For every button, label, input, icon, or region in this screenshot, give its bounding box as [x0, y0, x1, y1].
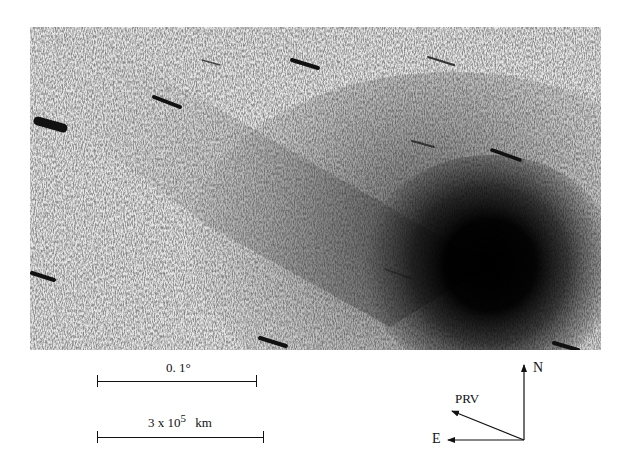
distance-scale-label: 3 x 105 km: [148, 415, 212, 431]
distance-scale-unit: km: [195, 415, 212, 430]
comet-image: [30, 27, 601, 350]
north-label: N: [533, 360, 543, 376]
angular-scale-line: [97, 381, 257, 382]
distance-scale-base: 3 x 10: [148, 415, 181, 430]
distance-scale-left-tick: [97, 431, 98, 443]
angular-scale-left-tick: [97, 375, 98, 387]
prv-label: PRV: [455, 391, 479, 407]
east-label: E: [432, 431, 441, 447]
orientation-compass: N E PRV: [430, 355, 560, 455]
angular-scale-right-tick: [256, 375, 257, 387]
distance-scale-exponent: 5: [181, 412, 187, 424]
angular-scale-label: 0. 1°: [166, 360, 191, 376]
distance-scale-line: [97, 437, 264, 438]
comet-photograph: [30, 27, 601, 350]
prv-arrow-icon: [452, 411, 524, 440]
distance-scale-right-tick: [263, 431, 264, 443]
